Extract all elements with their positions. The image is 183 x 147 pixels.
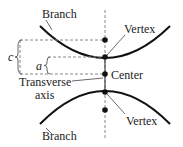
a-brace bbox=[44, 57, 50, 74]
vertex-top-label: Vertex bbox=[124, 22, 155, 36]
vertex-top-leader bbox=[107, 35, 125, 55]
branch-bottom-label: Branch bbox=[42, 129, 77, 143]
focus-top-dot bbox=[102, 37, 108, 43]
vertex-top-dot bbox=[102, 54, 108, 60]
hyperbola-diagram: Branch Vertex c a Center Transverse axis… bbox=[0, 0, 183, 147]
branch-top-label: Branch bbox=[42, 7, 77, 21]
transverse-label-line1: Transverse bbox=[19, 75, 71, 89]
c-label: c bbox=[8, 50, 14, 64]
branch-top-leader bbox=[46, 20, 52, 30]
vertex-bottom-dot bbox=[102, 89, 108, 95]
a-label: a bbox=[36, 59, 42, 73]
focus-bottom-dot bbox=[102, 107, 108, 113]
center-dot bbox=[102, 71, 108, 77]
c-brace bbox=[15, 40, 22, 74]
transverse-label-line2: axis bbox=[35, 88, 55, 102]
vertex-bottom-leader bbox=[107, 94, 125, 114]
transverse-leader bbox=[72, 78, 103, 81]
vertex-bottom-label: Vertex bbox=[126, 114, 157, 128]
center-label: Center bbox=[111, 68, 143, 82]
